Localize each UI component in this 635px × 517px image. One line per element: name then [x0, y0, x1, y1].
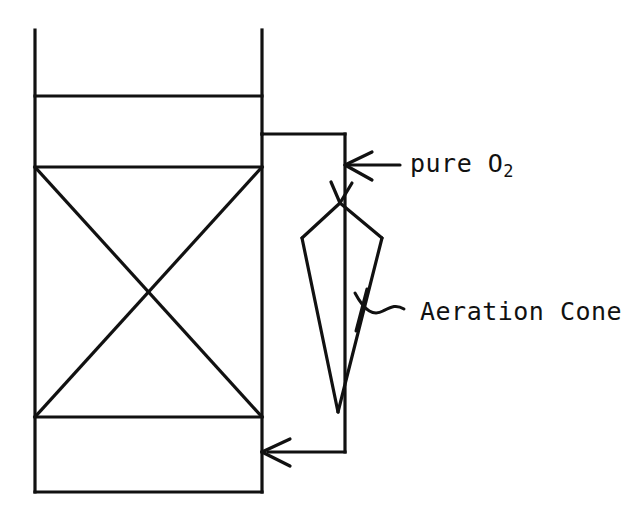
return-arrowhead-lower [262, 452, 290, 466]
return-arrowhead-upper [262, 439, 290, 452]
diagram-canvas: pure O2 Aeration Cone [0, 0, 635, 517]
pure-oxygen-label-subscript: 2 [503, 161, 513, 181]
oxygen-inlet-arrowhead-lower [345, 165, 372, 180]
schematic-drawing [0, 0, 635, 517]
downflow-arrowhead-left [331, 182, 340, 203]
pure-oxygen-label: pure O2 [410, 151, 514, 180]
aeration-cone-label: Aeration Cone [420, 299, 622, 324]
oxygen-inlet-arrowhead-upper [345, 152, 372, 165]
cone-lower-left-edge [302, 238, 338, 412]
pure-oxygen-label-text: pure O [410, 149, 503, 178]
cone-upper-left-edge [302, 203, 340, 238]
